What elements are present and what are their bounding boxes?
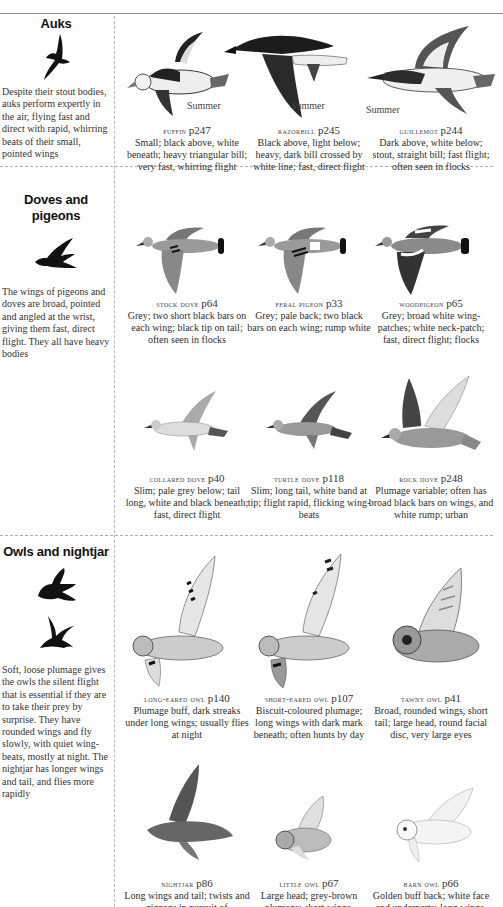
section-description: The wings of pigeons and doves are broad… (0, 286, 112, 360)
species-name: COLLARED DOVE (149, 474, 205, 484)
page-reference: p64 (201, 297, 218, 309)
species-name: FERAL PIGEON (275, 299, 323, 309)
species-description: Small; black above, white beneath; heavy… (127, 137, 247, 172)
species-description: Slim; pale grey below; tail long, white … (126, 485, 248, 520)
bird-illustration-stock-dove (122, 200, 242, 295)
section-title: Doves and pigeons (0, 192, 112, 224)
bird-illustration-guillemot (355, 18, 503, 118)
species-caption-nightjar: NIGHTJAR p86 Long wings and tail; twists… (124, 877, 250, 907)
species-description: Dark above, white below; stout, straight… (373, 137, 490, 172)
nightjar-silhouette-icon (34, 612, 78, 652)
species-caption-long-eared-owl: LONG-EARED OWL p140 Plumage buff, dark s… (124, 692, 250, 741)
page-reference: p247 (189, 124, 211, 136)
page-reference: p244 (441, 124, 463, 136)
page-reference: p40 (208, 472, 225, 484)
bird-illustration-tawny-owl (378, 560, 498, 680)
species-caption-stock-dove: STOCK DOVE p64 Grey; two short black bar… (124, 297, 250, 346)
plumage-label: Summer (366, 104, 400, 115)
species-name: GUILLEMOT (399, 126, 438, 136)
species-name: PUFFIN (163, 126, 186, 136)
species-name: STOCK DOVE (156, 299, 198, 309)
species-description: Large head; grey-brown plumage; short wi… (261, 890, 357, 907)
species-description: Slim; long tail, white band at tip; flig… (248, 485, 370, 520)
section-owls-intro: Owls and nightjar Soft, loose plumage gi… (0, 544, 112, 800)
page-reference: p67 (322, 877, 339, 889)
species-caption-guillemot: GUILLEMOT p244 Dark above, white below; … (368, 124, 494, 173)
species-name: LONG-EARED OWL (144, 694, 205, 704)
species-description: Biscuit-coloured plumage; long wings wit… (254, 705, 365, 740)
species-name: TAWNY OWL (401, 694, 442, 704)
section-doves-intro: Doves and pigeons The wings of pigeons a… (0, 192, 112, 360)
bird-illustration-short-eared-owl (250, 550, 370, 690)
page-reference: p65 (446, 297, 463, 309)
species-caption-puffin: PUFFIN p247 Small; black above, white be… (124, 124, 250, 173)
page-reference: p118 (322, 472, 344, 484)
species-name: SHORT-EARED OWL (265, 694, 329, 704)
species-caption-barn-owl: BARN OWL p66 Golden buff back; white fac… (368, 877, 494, 907)
species-caption-razorbill: RAZORBILL p245 Black above, light below;… (246, 124, 372, 173)
species-name: BARN OWL (404, 879, 440, 889)
species-description: Golden buff back; white face and underpa… (373, 890, 489, 907)
bird-illustration-feral-pigeon (244, 200, 364, 295)
pigeon-silhouette-icon (33, 236, 79, 272)
page-reference: p41 (444, 692, 461, 704)
plumage-label: Summer (187, 100, 221, 111)
section-title: Owls and nightjar (0, 544, 112, 560)
species-name: LITTLE OWL (279, 879, 319, 889)
page-reference: p33 (326, 297, 343, 309)
species-caption-woodpigeon: WOODPIGEON p65 Grey; broad white wing-pa… (368, 297, 494, 346)
section-description: Despite their stout bodies, auks perform… (0, 86, 112, 160)
species-caption-tawny-owl: TAWNY OWL p41 Broad, rounded wings, shor… (368, 692, 494, 741)
species-name: WOODPIGEON (399, 299, 444, 309)
species-description: Grey; two short black bars on each wing;… (128, 310, 247, 345)
auk-silhouette-icon (36, 32, 76, 82)
owl-silhouette-icon (34, 566, 78, 606)
page-reference: p245 (318, 124, 340, 136)
page-reference: p248 (441, 472, 463, 484)
bird-illustration-turtle-dove (250, 385, 370, 465)
bird-illustration-long-eared-owl (124, 552, 244, 687)
species-name: NIGHTJAR (161, 879, 194, 889)
species-caption-rock-dove: ROCK DOVE p248 Plumage variable; often h… (368, 472, 494, 521)
section-title: Auks (0, 16, 112, 32)
page-reference: p107 (331, 692, 353, 704)
species-name: RAZORBILL (278, 126, 315, 136)
bird-illustration-collared-dove (128, 385, 248, 465)
species-caption-collared-dove: COLLARED DOVE p40 Slim; pale grey below;… (124, 472, 250, 521)
bird-illustration-barn-owl (378, 780, 498, 862)
section-auks-intro: Auks Despite their stout bodies, auks pe… (0, 16, 112, 160)
species-caption-short-eared-owl: SHORT-EARED OWL p107 Biscuit-coloured pl… (246, 692, 372, 741)
species-description: Broad, rounded wings, short tail; large … (374, 705, 488, 740)
column-divider (114, 16, 115, 907)
species-caption-little-owl: LITTLE OWL p67 Large head; grey-brown pl… (246, 877, 372, 907)
species-name: ROCK DOVE (399, 474, 438, 484)
plumage-label: Summer (291, 100, 325, 111)
species-description: Black above, light below; heavy, dark bi… (253, 137, 364, 172)
section-description: Soft, loose plumage gives the owls the s… (0, 664, 112, 800)
bird-illustration-woodpigeon (366, 200, 486, 295)
species-description: Plumage buff, dark streaks under long wi… (125, 705, 248, 740)
species-caption-feral-pigeon: FERAL PIGEON p33 Grey; pale back; two bl… (246, 297, 372, 334)
section-separator (0, 535, 493, 536)
bird-illustration-rock-dove (372, 372, 492, 472)
species-description: Long wings and tail; twists and zigzags … (124, 890, 249, 907)
page-reference: p140 (208, 692, 230, 704)
bird-illustration-little-owl (250, 788, 370, 860)
page-reference: p86 (196, 877, 213, 889)
species-description: Grey; pale back; two black bars on each … (247, 310, 371, 333)
species-caption-turtle-dove: TURTLE DOVE p118 Slim; long tail, white … (246, 472, 372, 521)
bird-illustration-nightjar (124, 760, 244, 860)
species-description: Plumage variable; often has broad black … (369, 485, 493, 520)
page-reference: p66 (442, 877, 459, 889)
species-description: Grey; broad white wing-patches; white ne… (378, 310, 485, 345)
species-name: TURTLE DOVE (274, 474, 320, 484)
top-rule (0, 13, 503, 14)
